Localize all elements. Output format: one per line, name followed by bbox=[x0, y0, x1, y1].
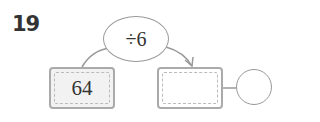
operation-label: ÷6 bbox=[126, 28, 147, 51]
input-value: 64 bbox=[54, 72, 110, 104]
quotient-answer-box[interactable] bbox=[157, 67, 223, 109]
input-box: 64 bbox=[49, 67, 115, 109]
operation-bubble: ÷6 bbox=[103, 16, 169, 62]
remainder-answer-circle[interactable] bbox=[236, 69, 272, 105]
input-arc bbox=[82, 48, 110, 67]
quotient-answer-field[interactable] bbox=[162, 72, 218, 104]
